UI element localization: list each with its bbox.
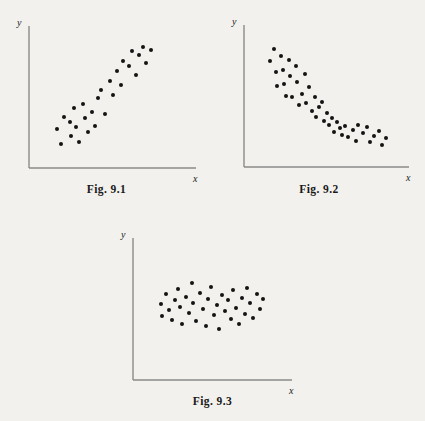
data-point — [243, 312, 247, 316]
data-point — [178, 305, 182, 309]
data-point — [274, 70, 278, 74]
data-point — [173, 298, 177, 302]
data-point — [240, 296, 244, 300]
data-point — [287, 58, 291, 62]
data-point — [74, 125, 78, 129]
y-axis-label: y — [121, 230, 125, 240]
y-axis-label: y — [17, 18, 21, 28]
data-point — [310, 109, 314, 113]
data-point — [99, 88, 103, 92]
data-point — [86, 130, 90, 134]
figure-sheet: yxFig. 9.1yxFig. 9.2yxFig. 9.3 — [0, 0, 425, 421]
data-point — [268, 59, 272, 63]
scatter-plot-area: yx — [100, 210, 325, 421]
data-point — [377, 129, 381, 133]
data-point — [108, 79, 112, 83]
data-point — [159, 302, 163, 306]
data-point — [282, 82, 286, 86]
data-point — [290, 95, 294, 99]
figure-caption: Fig. 9.2 — [213, 183, 425, 195]
data-point — [354, 139, 358, 143]
data-point — [380, 143, 384, 147]
scatter-plot-area: yx — [213, 0, 425, 210]
scatter-plot-area: yx — [0, 0, 213, 210]
data-point — [93, 124, 97, 128]
data-point — [294, 64, 298, 68]
data-point — [176, 287, 180, 291]
data-point — [149, 48, 153, 52]
data-point — [284, 94, 288, 98]
data-point — [303, 72, 307, 76]
data-point — [261, 297, 265, 301]
data-point — [187, 311, 191, 315]
x-axis-label: x — [406, 173, 410, 183]
data-point — [322, 119, 326, 123]
data-point — [332, 130, 336, 134]
figure-caption: Fig. 9.1 — [0, 183, 213, 195]
data-point — [68, 120, 72, 124]
data-point — [115, 69, 119, 73]
data-point — [190, 281, 194, 285]
data-point — [198, 291, 202, 295]
data-point — [121, 59, 125, 63]
figure-fig-9-3: yxFig. 9.3 — [100, 210, 325, 421]
data-point — [62, 115, 66, 119]
data-point — [137, 53, 141, 57]
data-point — [201, 307, 205, 311]
data-point — [127, 64, 131, 68]
y-axis-label: y — [232, 17, 236, 27]
data-point — [351, 128, 355, 132]
data-point — [229, 317, 233, 321]
data-point — [83, 116, 87, 120]
data-point — [180, 322, 184, 326]
data-point — [111, 93, 115, 97]
data-point — [251, 316, 255, 320]
data-point — [209, 285, 213, 289]
data-point — [335, 120, 339, 124]
figure-fig-9-1: yxFig. 9.1 — [0, 0, 213, 210]
data-point — [272, 47, 276, 51]
plot-axes — [0, 0, 213, 210]
data-point — [77, 140, 81, 144]
figure-caption: Fig. 9.3 — [100, 395, 325, 407]
data-point — [281, 68, 285, 72]
data-point — [90, 110, 94, 114]
data-point — [134, 73, 138, 77]
data-point — [215, 303, 219, 307]
data-point — [297, 103, 301, 107]
data-point — [184, 295, 188, 299]
data-point — [130, 49, 134, 53]
data-point — [191, 301, 195, 305]
figure-fig-9-2: yxFig. 9.2 — [213, 0, 425, 210]
data-point — [300, 92, 304, 96]
data-point — [119, 83, 123, 87]
